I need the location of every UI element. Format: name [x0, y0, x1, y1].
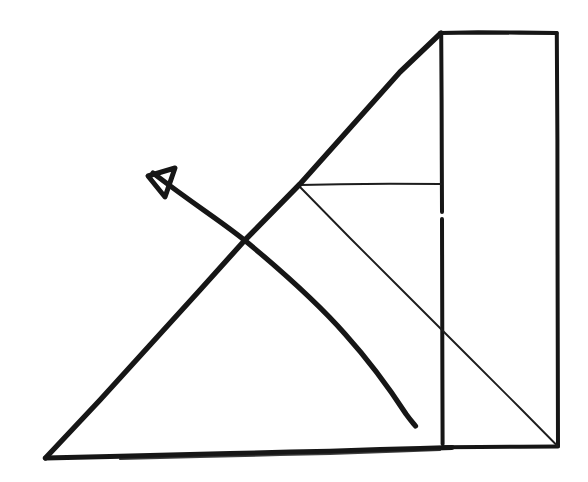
rectangle-left-edge-upper: [441, 33, 442, 212]
rectangle-top-edge: [440, 32, 557, 33]
rectangle-bottom-edge: [443, 447, 558, 448]
thin-horizontal-connector: [300, 184, 441, 185]
thick-rising-diagonal: [46, 33, 442, 458]
rectangle-right-edge: [557, 33, 558, 446]
sketch-canvas: [0, 0, 588, 482]
thin-falling-diagonal: [300, 187, 558, 446]
hand-drawn-diagram: [0, 0, 588, 482]
tall-rectangle: [440, 32, 558, 447]
